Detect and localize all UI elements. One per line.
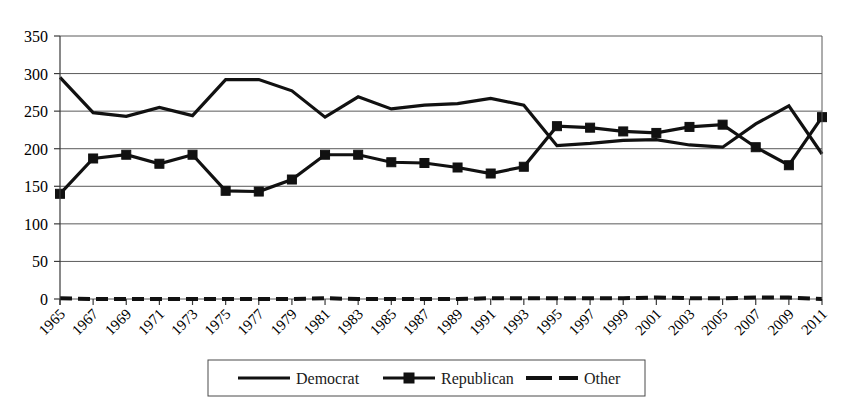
y-axis-tick-label: 250 [24,103,48,120]
legend-label-democrat: Democrat [296,370,360,387]
x-axis-tick-label: 2009 [764,306,797,339]
y-axis-tick-label: 50 [32,253,48,270]
gridlines [60,36,822,299]
series-line-democrat [60,77,822,154]
data-point-marker-republican [254,187,263,196]
data-point-marker-republican [321,150,330,159]
series-line-republican [60,117,822,194]
x-axis-tick-label: 1981 [301,306,334,339]
data-point-marker-republican [751,143,760,152]
x-axis-tick-label: 2011 [798,306,830,338]
y-axis-tick-label: 350 [24,28,48,45]
y-axis-tick-label: 200 [24,141,48,158]
x-axis-tick-label: 1975 [201,306,234,339]
x-axis-tick-label: 1983 [334,306,367,339]
x-axis-tick-label: 2001 [632,306,665,339]
data-point-marker-republican [718,120,727,129]
y-axis-tick-label: 150 [24,178,48,195]
x-axis-tick-label: 1979 [268,306,301,339]
y-axis-tick-label: 300 [24,66,48,83]
y-axis-tick-labels: 050100150200250300350 [24,28,48,308]
x-axis-tick-label: 1967 [69,305,102,338]
data-point-marker-republican [619,127,628,136]
chart-container: 050100150200250300350 196519671969197119… [0,0,853,414]
x-axis-tick-label: 1995 [533,306,566,339]
data-point-marker-republican [486,169,495,178]
x-axis-tick-label: 1991 [466,306,499,339]
data-point-marker-republican [287,175,296,184]
data-point-marker-republican [420,158,429,167]
x-axis-tick-label: 2007 [731,305,764,338]
x-axis-tick-label: 1985 [367,306,400,339]
x-axis-tick-label: 1993 [499,306,532,339]
x-axis-tick-label: 1973 [168,306,201,339]
data-point-marker-republican [453,163,462,172]
y-axis-tickmarks [54,36,60,299]
data-point-marker-republican [155,159,164,168]
chart-legend: DemocratRepublicanOther [208,360,645,396]
x-axis-tick-label: 1965 [36,306,69,339]
data-series [56,77,827,299]
data-point-marker-republican [387,158,396,167]
legend-label-republican: Republican [441,370,514,388]
data-point-marker-republican [784,161,793,170]
data-point-marker-republican [354,150,363,159]
data-point-marker-republican [519,162,528,171]
line-chart: 050100150200250300350 196519671969197119… [0,0,853,414]
data-point-marker-republican [552,122,561,131]
data-point-marker-republican [652,128,661,137]
y-axis-tick-label: 100 [24,216,48,233]
x-axis-tick-label: 1997 [566,305,599,338]
x-axis-tick-label: 1999 [599,306,632,339]
data-point-marker-republican [586,123,595,132]
x-axis-tick-labels: 1965196719691971197319751977197919811983… [36,305,831,338]
legend-marker-republican [404,373,414,383]
x-axis-tick-label: 1977 [234,305,267,338]
x-axis-tick-label: 1971 [135,306,168,339]
data-point-marker-republican [221,186,230,195]
x-axis-tick-label: 2003 [665,306,698,339]
data-point-marker-republican [685,122,694,131]
axis-lines [60,36,822,305]
x-axis-tick-label: 2005 [698,306,731,339]
x-axis-tick-label: 1969 [102,306,135,339]
data-point-marker-republican [188,150,197,159]
x-axis-tick-label: 1987 [400,305,433,338]
y-axis-tick-label: 0 [40,291,48,308]
legend-label-other: Other [584,370,621,387]
x-axis-tick-label: 1989 [433,306,466,339]
data-point-marker-republican [89,154,98,163]
data-point-marker-republican [122,150,131,159]
